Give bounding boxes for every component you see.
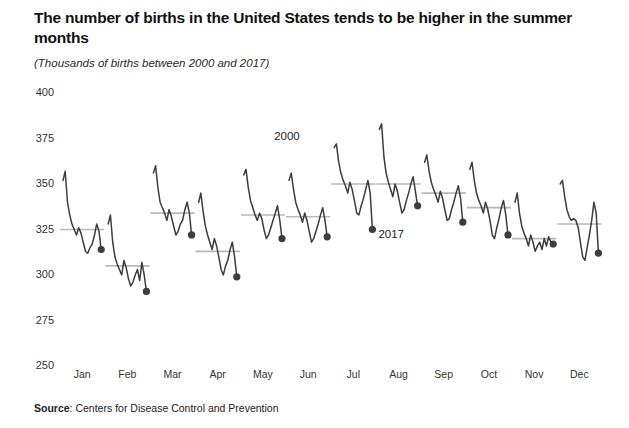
last-value-dot xyxy=(414,202,421,209)
x-axis-tick: Feb xyxy=(107,368,147,380)
x-axis-tick: Aug xyxy=(379,368,419,380)
month-panel-oct xyxy=(467,162,512,238)
series-line xyxy=(425,155,463,222)
last-value-dot xyxy=(369,226,376,233)
x-axis-tick: Nov xyxy=(514,368,554,380)
chart-page: The number of births in the United State… xyxy=(0,0,629,428)
last-value-dot xyxy=(233,273,240,280)
series-line xyxy=(470,162,508,238)
y-axis-tick: 325 xyxy=(20,223,54,235)
x-axis-tick: Dec xyxy=(559,368,599,380)
x-axis-tick: Jan xyxy=(62,368,102,380)
births-sparkline-chart xyxy=(0,0,629,400)
series-line xyxy=(108,215,146,292)
annotation-first-year: 2000 xyxy=(274,130,300,142)
month-panel-jun xyxy=(286,173,331,242)
month-panel-nov xyxy=(512,193,557,251)
y-axis-tick: 350 xyxy=(20,177,54,189)
y-axis-tick: 400 xyxy=(20,86,54,98)
last-value-dot xyxy=(550,240,557,247)
last-value-dot xyxy=(504,231,511,238)
x-axis-tick: Oct xyxy=(469,368,509,380)
x-axis-tick: May xyxy=(243,368,283,380)
series-line xyxy=(153,166,191,235)
last-value-dot xyxy=(98,246,105,253)
x-axis-tick: Sep xyxy=(424,368,464,380)
x-axis-tick: Mar xyxy=(153,368,193,380)
series-line xyxy=(334,144,372,230)
x-axis-tick: Jul xyxy=(333,368,373,380)
month-panel-mar xyxy=(150,166,195,239)
series-line xyxy=(289,173,327,242)
last-value-dot xyxy=(595,250,602,257)
series-line xyxy=(515,193,553,251)
source-label: Source xyxy=(34,402,70,414)
series-line xyxy=(244,169,282,238)
source-text: : Centers for Disease Control and Preven… xyxy=(70,402,279,414)
y-axis-tick: 250 xyxy=(20,359,54,371)
series-line xyxy=(199,193,237,277)
month-panel-jul xyxy=(331,144,376,233)
last-value-dot xyxy=(324,233,331,240)
last-value-dot xyxy=(143,288,150,295)
series-line xyxy=(63,171,101,253)
month-panel-sep xyxy=(422,155,467,226)
source-note: Source: Centers for Disease Control and … xyxy=(34,402,279,414)
x-axis-tick: Jun xyxy=(288,368,328,380)
month-panel-may xyxy=(241,169,286,242)
x-axis-tick: Apr xyxy=(198,368,238,380)
last-value-dot xyxy=(188,231,195,238)
annotation-last-year: 2017 xyxy=(378,228,404,240)
month-panel-dec xyxy=(557,180,602,260)
y-axis-tick: 375 xyxy=(20,132,54,144)
month-panel-aug xyxy=(376,124,421,213)
month-panel-feb xyxy=(105,215,150,295)
month-panel-apr xyxy=(196,193,241,280)
y-axis-tick: 275 xyxy=(20,314,54,326)
y-axis-tick: 300 xyxy=(20,268,54,280)
series-line xyxy=(560,180,598,260)
month-panel-jan xyxy=(60,171,105,253)
last-value-dot xyxy=(459,219,466,226)
series-line xyxy=(379,124,417,213)
last-value-dot xyxy=(278,235,285,242)
